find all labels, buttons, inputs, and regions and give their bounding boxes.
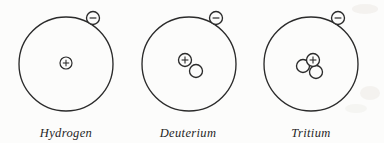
- nucleus-hydrogen: [60, 57, 72, 69]
- nucleus-tritium: [297, 54, 323, 79]
- atom-hydrogen: [19, 12, 113, 112]
- atom-label-tritium: Tritium: [246, 126, 376, 141]
- electron-icon-hydrogen: [87, 12, 100, 25]
- atom-label-hydrogen: Hydrogen: [1, 126, 131, 141]
- isotope-diagram: Hydrogen Deuterium Tritium: [0, 0, 384, 143]
- proton-icon: [307, 54, 320, 67]
- isotope-diagram-canvas: [0, 0, 384, 143]
- nucleus-deuterium: [179, 54, 203, 78]
- atom-tritium: [264, 12, 358, 112]
- electron-icon-tritium: [332, 12, 345, 25]
- atom-deuterium: [142, 12, 236, 112]
- proton-icon: [60, 57, 72, 69]
- electron-icon-deuterium: [210, 12, 223, 25]
- atom-label-deuterium: Deuterium: [123, 126, 253, 141]
- neutron-icon: [310, 66, 323, 79]
- neutron-icon: [190, 65, 203, 78]
- proton-icon: [179, 54, 192, 67]
